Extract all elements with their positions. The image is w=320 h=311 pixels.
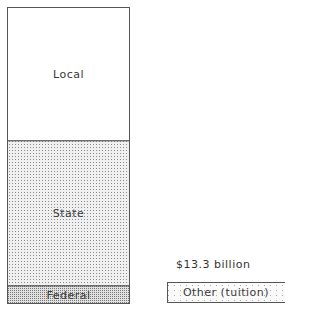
other-tuition-label: Other (tuition) (183, 286, 269, 299)
segment-label-federal: Federal (46, 289, 90, 302)
other-value-label: $13.3 billion (176, 258, 250, 271)
segment-label-state: State (53, 207, 85, 220)
segment-label-local: Local (53, 68, 84, 81)
